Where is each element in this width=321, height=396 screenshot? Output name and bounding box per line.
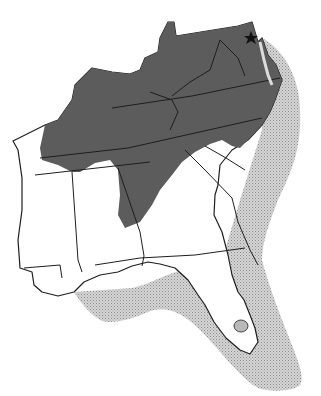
- lake-okeechobee: [234, 320, 248, 332]
- range-map: [0, 0, 321, 396]
